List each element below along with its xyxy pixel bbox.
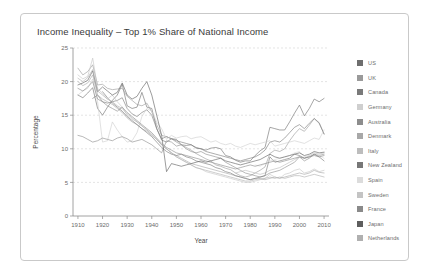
legend-swatch-icon: [357, 206, 363, 212]
x-tick-label: 2010: [317, 222, 331, 228]
x-tick-label: 2000: [293, 222, 307, 228]
legend-label: Germany: [368, 104, 392, 110]
y-tick-label: 0: [65, 213, 69, 219]
legend-item-denmark[interactable]: Denmark: [357, 129, 427, 144]
legend-swatch-icon: [357, 177, 363, 183]
x-tick-label: 1940: [145, 222, 159, 228]
x-axis-title: Year: [194, 237, 208, 244]
legend-label: Denmark: [368, 133, 391, 139]
legend-item-germany[interactable]: Germany: [357, 100, 427, 115]
legend-item-france[interactable]: France: [357, 202, 427, 217]
legend-label: UK: [368, 75, 376, 81]
chart-legend: USUKCanadaGermanyAustraliaDenmarkItalyNe…: [357, 56, 427, 246]
legend-item-italy[interactable]: Italy: [357, 144, 427, 159]
chart-card: Income Inequality – Top 1% Share of Nati…: [20, 13, 409, 261]
legend-label: Japan: [368, 221, 384, 227]
y-tick-label: 25: [61, 45, 68, 51]
legend-swatch-icon: [357, 192, 363, 198]
legend-label: New Zealand: [368, 162, 402, 168]
y-tick-label: 10: [61, 146, 68, 152]
legend-item-new-zealand[interactable]: New Zealand: [357, 158, 427, 173]
line-chart: 0510152025191019201930194019501960197019…: [27, 40, 337, 254]
legend-label: Spain: [368, 177, 383, 183]
series-line-canada: [93, 95, 324, 161]
legend-item-spain[interactable]: Spain: [357, 173, 427, 188]
legend-item-japan[interactable]: Japan: [357, 217, 427, 232]
y-tick-label: 15: [61, 112, 68, 118]
x-tick-label: 1970: [219, 222, 233, 228]
series-line-us: [78, 84, 324, 162]
legend-swatch-icon: [357, 133, 363, 139]
legend-item-uk[interactable]: UK: [357, 71, 427, 86]
legend-swatch-icon: [357, 75, 363, 81]
legend-swatch-icon: [357, 119, 363, 125]
legend-item-sweden[interactable]: Sweden: [357, 187, 427, 202]
legend-label: France: [368, 206, 386, 212]
x-tick-label: 1960: [194, 222, 208, 228]
legend-swatch-icon: [357, 148, 363, 154]
x-tick-label: 1910: [71, 222, 85, 228]
legend-swatch-icon: [357, 89, 363, 95]
legend-item-us[interactable]: US: [357, 56, 427, 71]
y-tick-label: 20: [61, 79, 68, 85]
y-tick-label: 5: [65, 180, 69, 186]
x-tick-label: 1950: [170, 222, 184, 228]
page-title: Income Inequality – Top 1% Share of Nati…: [37, 26, 268, 37]
legend-swatch-icon: [357, 162, 363, 168]
x-tick-label: 1980: [244, 222, 258, 228]
legend-item-australia[interactable]: Australia: [357, 114, 427, 129]
x-tick-label: 1930: [120, 222, 134, 228]
y-axis-title: Percentage: [32, 115, 40, 149]
legend-swatch-icon: [357, 104, 363, 110]
legend-swatch-icon: [357, 221, 363, 227]
legend-label: Sweden: [368, 192, 389, 198]
series-line-netherlands: [78, 70, 324, 182]
series-line-denmark: [78, 75, 324, 180]
legend-label: US: [368, 60, 376, 66]
series-line-spain: [255, 151, 324, 166]
legend-label: Italy: [368, 148, 379, 154]
legend-swatch-icon: [357, 60, 363, 66]
legend-label: Netherlands: [368, 235, 399, 241]
legend-label: Canada: [368, 89, 388, 95]
chart-plot-area: 0510152025191019201930194019501960197019…: [27, 40, 337, 254]
legend-swatch-icon: [357, 235, 363, 241]
legend-label: Australia: [368, 119, 391, 125]
legend-item-netherlands[interactable]: Netherlands: [357, 231, 427, 246]
legend-item-canada[interactable]: Canada: [357, 85, 427, 100]
series-line-new-zealand: [103, 92, 325, 180]
x-tick-label: 1990: [268, 222, 282, 228]
x-tick-label: 1920: [96, 222, 110, 228]
